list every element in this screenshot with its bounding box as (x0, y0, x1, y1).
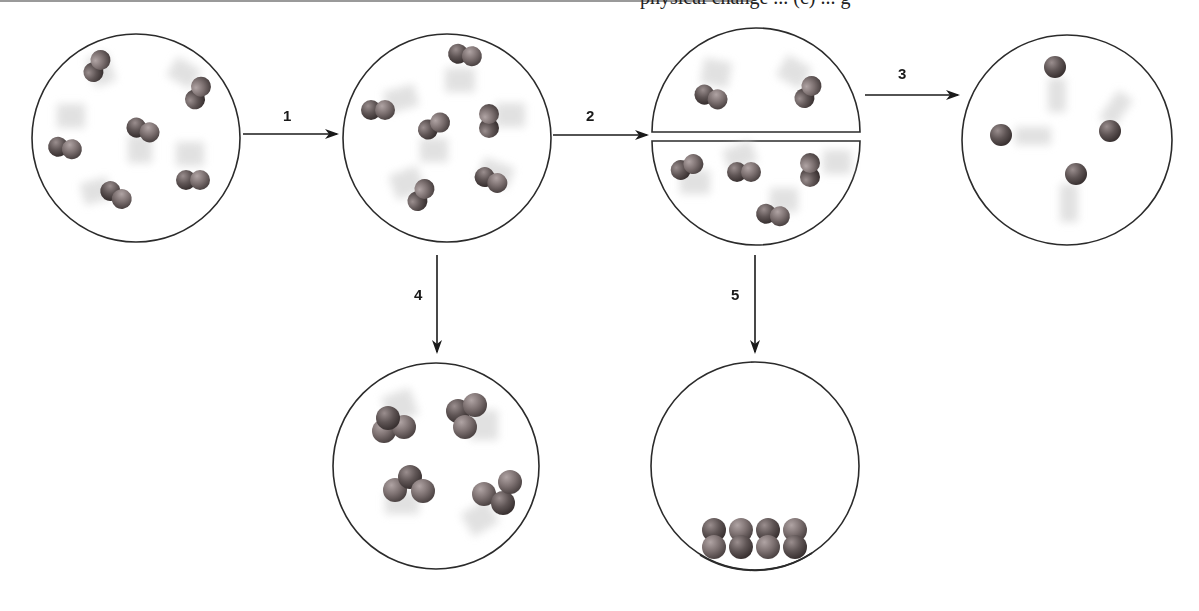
container-c (652, 28, 860, 245)
diatomic-molecule (800, 153, 820, 187)
diatomic-molecule (479, 104, 499, 138)
single-atom (1065, 163, 1087, 185)
container-a (32, 34, 240, 242)
container-f (651, 362, 859, 570)
step-label-1: 1 (283, 107, 291, 124)
container-d (962, 35, 1172, 245)
single-atom (1099, 120, 1121, 142)
container-b (343, 34, 551, 242)
step-label-4: 4 (414, 286, 422, 303)
step-label-2: 2 (586, 107, 594, 124)
step-label-3: 3 (898, 65, 906, 82)
diatomic-molecule (176, 170, 210, 190)
single-atom (990, 124, 1012, 146)
container-e (333, 363, 539, 569)
particle-diagram (0, 0, 1199, 611)
step-label-5: 5 (731, 286, 739, 303)
diatomic-molecule (727, 162, 761, 182)
diatomic-molecule (361, 100, 395, 120)
single-atom (1044, 56, 1066, 78)
